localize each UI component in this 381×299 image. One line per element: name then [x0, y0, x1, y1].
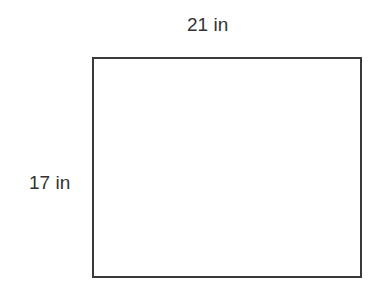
- width-label: 21 in: [187, 15, 228, 34]
- height-label: 17 in: [29, 173, 70, 192]
- rectangle-shape: [92, 57, 362, 278]
